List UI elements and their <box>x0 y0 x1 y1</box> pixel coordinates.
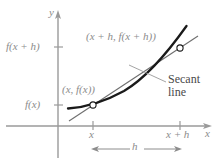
point-x-fx-marker <box>90 102 96 108</box>
y-axis-label: y <box>49 7 54 18</box>
secant-annotation-line1: Secant <box>168 73 200 85</box>
y-tick-label-lower: f(x) <box>25 99 40 110</box>
y-tick-label-upper: f(x + h) <box>6 41 40 52</box>
point-label-upper: (x + h, f(x + h)) <box>86 31 156 42</box>
x-tick-label-left: x <box>89 129 94 140</box>
h-interval-label: h <box>132 141 138 152</box>
point-xh-fxh-marker <box>177 45 183 51</box>
secant-annotation-line2: line <box>168 86 186 98</box>
point-label-lower: (x, f(x)) <box>62 84 95 95</box>
secant-line-figure: y x f(x + h) f(x) x x + h (x + h, f(x + … <box>0 0 220 161</box>
x-axis-label: x <box>205 128 210 139</box>
secant-label-leader-line <box>129 65 166 82</box>
x-tick-label-right: x + h <box>166 129 189 140</box>
